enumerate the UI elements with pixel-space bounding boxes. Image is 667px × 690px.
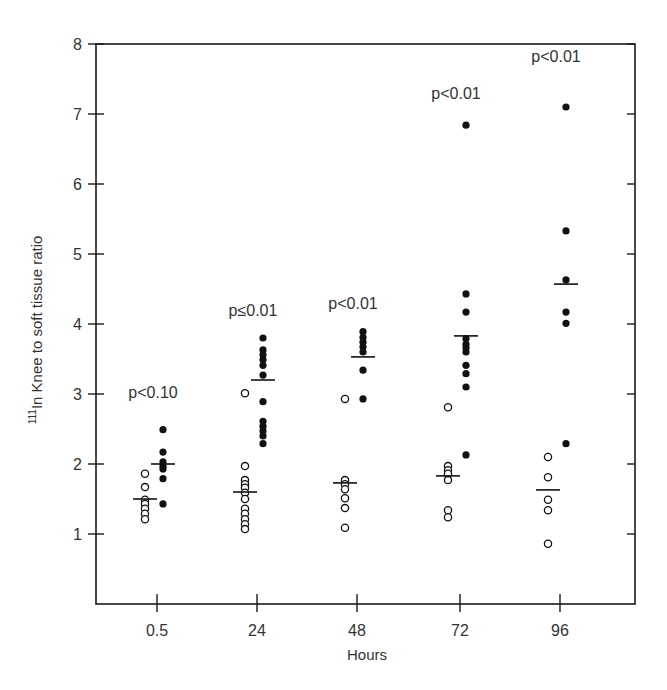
- filled-circle-point: [159, 500, 166, 507]
- y-tick-label: 1: [73, 526, 82, 543]
- y-axis-title: 111In Knee to soft tissue ratio: [27, 236, 45, 425]
- y-tick-label: 5: [73, 246, 82, 263]
- open-circle-point: [341, 495, 348, 502]
- y-axis-title-text: In Knee to soft tissue ratio: [28, 236, 45, 409]
- open-circle-point: [444, 477, 451, 484]
- filled-circle-point: [259, 432, 266, 439]
- filled-circle-point: [259, 372, 266, 379]
- plot-border: [96, 44, 635, 604]
- x-tick-label: 48: [348, 622, 366, 639]
- svg-text:111In Knee to soft tissue rati: 111In Knee to soft tissue ratio: [27, 236, 45, 425]
- x-tick-label: 72: [451, 622, 469, 639]
- filled-circle-point: [159, 449, 166, 456]
- p-value-label: p<0.01: [531, 48, 580, 65]
- open-circle-point: [341, 505, 348, 512]
- open-circle-point: [341, 486, 348, 493]
- open-circle-point: [444, 514, 451, 521]
- open-circle-point: [241, 526, 248, 533]
- open-circle-point: [544, 453, 551, 460]
- scatter-chart: 12345678 0.524487296 p<0.10p≤0.01p<0.01p…: [0, 0, 667, 690]
- filled-circle-point: [462, 309, 469, 316]
- filled-circle-point: [159, 426, 166, 433]
- data-points: [141, 103, 569, 547]
- filled-circle-point: [159, 475, 166, 482]
- plot-frame: [96, 44, 635, 604]
- open-circle-point: [544, 540, 551, 547]
- p-value-annotations: p<0.10p≤0.01p<0.01p<0.01p<0.01: [128, 48, 580, 401]
- open-circle-point: [141, 516, 148, 523]
- open-circle-point: [444, 404, 451, 411]
- open-circle-point: [241, 463, 248, 470]
- filled-circle-point: [462, 348, 469, 355]
- x-axis: 0.524487296: [146, 594, 569, 639]
- filled-circle-point: [159, 465, 166, 472]
- filled-circle-point: [259, 398, 266, 405]
- open-circle-point: [241, 390, 248, 397]
- filled-circle-point: [359, 348, 366, 355]
- y-axis-title-superscript: 111: [27, 409, 38, 425]
- filled-circle-point: [462, 370, 469, 377]
- filled-circle-point: [462, 451, 469, 458]
- y-tick-label: 3: [73, 386, 82, 403]
- x-axis-title: Hours: [347, 646, 387, 663]
- filled-circle-point: [462, 383, 469, 390]
- filled-circle-point: [562, 320, 569, 327]
- open-circle-point: [241, 495, 248, 502]
- filled-circle-point: [562, 276, 569, 283]
- y-tick-label: 6: [73, 176, 82, 193]
- open-circle-point: [444, 507, 451, 514]
- filled-circle-point: [259, 362, 266, 369]
- y-axis: 12345678: [73, 36, 635, 543]
- filled-circle-point: [562, 440, 569, 447]
- open-circle-point: [341, 524, 348, 531]
- y-tick-label: 2: [73, 456, 82, 473]
- x-tick-label: 24: [248, 622, 266, 639]
- open-circle-point: [141, 484, 148, 491]
- p-value-label: p≤0.01: [229, 302, 278, 319]
- filled-circle-point: [462, 290, 469, 297]
- filled-circle-point: [359, 395, 366, 402]
- open-circle-point: [544, 507, 551, 514]
- p-value-label: p<0.10: [128, 384, 177, 401]
- mean-lines: [133, 284, 578, 499]
- open-circle-point: [544, 474, 551, 481]
- filled-circle-point: [462, 122, 469, 129]
- open-circle-point: [141, 470, 148, 477]
- x-tick-label: 0.5: [146, 622, 168, 639]
- filled-circle-point: [562, 309, 569, 316]
- p-value-label: p<0.01: [431, 85, 480, 102]
- y-tick-label: 7: [73, 106, 82, 123]
- open-circle-point: [544, 496, 551, 503]
- filled-circle-point: [259, 334, 266, 341]
- filled-circle-point: [259, 440, 266, 447]
- y-tick-label: 4: [73, 316, 82, 333]
- x-tick-label: 96: [551, 622, 569, 639]
- p-value-label: p<0.01: [328, 295, 377, 312]
- y-tick-label: 8: [73, 36, 82, 53]
- filled-circle-point: [462, 362, 469, 369]
- filled-circle-point: [359, 367, 366, 374]
- open-circle-point: [341, 395, 348, 402]
- filled-circle-point: [562, 103, 569, 110]
- filled-circle-point: [562, 227, 569, 234]
